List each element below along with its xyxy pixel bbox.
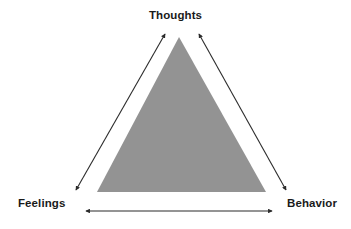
node-label-thoughts: Thoughts [0, 9, 351, 22]
node-label-feelings: Feelings [18, 197, 65, 210]
triangle-shape [97, 37, 266, 192]
diagram-canvas [0, 0, 351, 229]
cognitive-triangle-diagram: Thoughts Feelings Behavior [0, 0, 351, 229]
node-label-behavior: Behavior [287, 197, 337, 210]
